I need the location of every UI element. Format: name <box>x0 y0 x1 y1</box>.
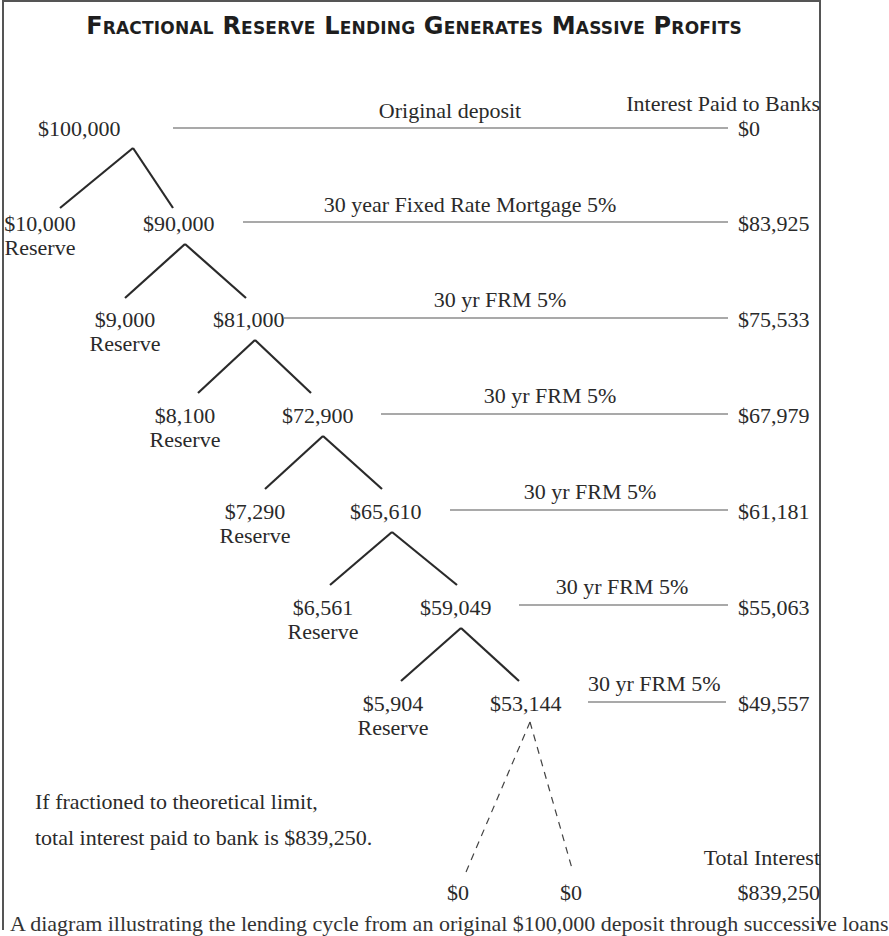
loan-label: 30 yr FRM 5% <box>588 672 721 696</box>
reserve-amount: $6,561 <box>258 596 388 620</box>
node-amount: $65,610 <box>350 500 422 524</box>
limit-leaf-right: $0 <box>560 881 582 905</box>
interest-value: $75,533 <box>738 308 810 332</box>
interest-value: $67,979 <box>738 404 810 428</box>
node-amount: $81,000 <box>213 308 285 332</box>
total-interest-label: Total Interest <box>704 846 820 870</box>
interest-value: $55,063 <box>738 596 810 620</box>
reserve-amount: $5,904 <box>328 692 458 716</box>
interest-value: $83,925 <box>738 212 810 236</box>
reserve-label: Reserve <box>328 716 458 740</box>
node-amount: $53,144 <box>490 692 562 716</box>
reserve-label: Reserve <box>190 524 320 548</box>
reserve-label: Reserve <box>258 620 388 644</box>
figure-caption-partial: A diagram illustrating the lending cycle… <box>10 912 889 936</box>
reserve-label: Reserve <box>60 332 190 356</box>
loan-label: 30 yr FRM 5% <box>450 384 650 408</box>
reserve-label: Reserve <box>0 236 80 260</box>
reserve-amount: $8,100 <box>120 404 250 428</box>
node-amount: $72,900 <box>282 404 354 428</box>
reserve-amount: $10,000 <box>0 212 80 236</box>
reserve-amount: $9,000 <box>60 308 190 332</box>
interest-value: $49,557 <box>738 692 810 716</box>
total-interest-value: $839,250 <box>738 881 821 905</box>
reserve-amount: $7,290 <box>190 500 320 524</box>
node-amount: $100,000 <box>38 117 121 141</box>
interest-value: $61,181 <box>738 500 810 524</box>
limit-note-line2: total interest paid to bank is $839,250. <box>35 826 372 850</box>
loan-label: 30 yr FRM 5% <box>522 575 722 599</box>
limit-note-line1: If fractioned to theoretical limit, <box>35 790 318 814</box>
loan-label: 30 yr FRM 5% <box>490 480 690 504</box>
node-amount: $90,000 <box>143 212 215 236</box>
loan-label: 30 year Fixed Rate Mortgage 5% <box>300 193 640 217</box>
limit-leaf-left: $0 <box>447 881 469 905</box>
loan-label: 30 yr FRM 5% <box>400 288 600 312</box>
interest-value: $0 <box>738 117 760 141</box>
loan-label-original: Original deposit <box>300 99 600 123</box>
reserve-label: Reserve <box>120 428 250 452</box>
node-amount: $59,049 <box>420 596 492 620</box>
